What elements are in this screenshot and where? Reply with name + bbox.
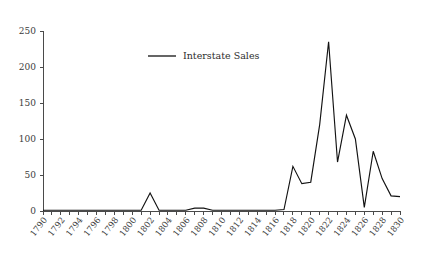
x-axis-tick-label: 1814: [242, 215, 263, 238]
x-axis-tick-label: 1810: [206, 215, 227, 238]
x-axis-tick-label: 1828: [367, 215, 388, 238]
x-axis-tick-label: 1808: [189, 215, 210, 238]
x-axis-tick-label: 1794: [64, 215, 85, 238]
legend-label-0: Interstate Sales: [183, 50, 260, 61]
data-series-group: [43, 42, 400, 210]
x-axis-tick-label: 1806: [171, 215, 192, 238]
x-axis-tick-label: 1816: [260, 215, 281, 238]
y-axis-tick-label: 200: [19, 62, 36, 72]
x-axis-tick-label: 1830: [385, 215, 406, 238]
x-axis-tick-label: 1826: [349, 215, 370, 238]
y-axis-tick-label: 250: [19, 26, 36, 36]
chart-legend: Interstate Sales: [148, 50, 260, 61]
series-line-interstate-sales: [43, 42, 400, 210]
x-axis: 1790179217941796179818001802180418061808…: [28, 211, 406, 238]
x-axis-tick-label: 1822: [313, 215, 334, 238]
x-axis-tick-label: 1798: [99, 215, 120, 238]
x-axis-tick-label: 1824: [331, 215, 352, 238]
y-axis-tick-label: 150: [19, 98, 36, 108]
x-axis-tick-label: 1818: [278, 215, 299, 238]
x-axis-tick-label: 1820: [296, 215, 317, 238]
y-axis-tick-label: 0: [30, 206, 36, 216]
x-axis-tick-label: 1790: [28, 215, 49, 238]
x-axis-tick-label: 1800: [117, 215, 138, 238]
y-axis-tick-label: 50: [25, 170, 37, 180]
x-axis-tick-label: 1792: [46, 215, 67, 238]
x-axis-tick-label: 1812: [224, 215, 245, 238]
chart-container: 050100150200250 179017921794179617981800…: [0, 0, 425, 259]
y-axis: 050100150200250: [19, 26, 43, 216]
x-axis-tick-label: 1796: [81, 215, 102, 238]
interstate-sales-line-chart: 050100150200250 179017921794179617981800…: [0, 0, 425, 259]
y-axis-tick-label: 100: [19, 134, 36, 144]
x-axis-tick-label: 1802: [135, 215, 156, 238]
x-axis-tick-label: 1804: [153, 215, 174, 238]
